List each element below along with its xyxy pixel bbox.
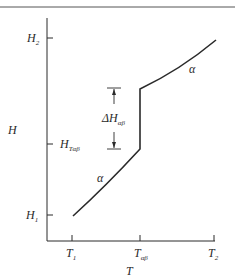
delta-h-label: ΔHαβ (101, 111, 125, 127)
y-tick-label-h1: H1 (25, 208, 38, 224)
y-axis-label: H (7, 123, 18, 137)
x-tick-label-t1: T1 (66, 246, 76, 262)
enthalpy-temperature-diagram: H2 HTαβ H1 H T1 Tαβ T2 T α α (0, 0, 235, 280)
x-tick-label-t2: T2 (208, 246, 219, 262)
phase-label-upper: α (189, 62, 196, 76)
x-axis-label: T (126, 264, 134, 278)
phase-label-lower: α (97, 171, 104, 185)
x-tick-label-tab: Tαβ (134, 246, 148, 262)
y-tick-label-h2: H2 (26, 31, 40, 47)
y-tick-label-htab: HTαβ (59, 137, 80, 153)
